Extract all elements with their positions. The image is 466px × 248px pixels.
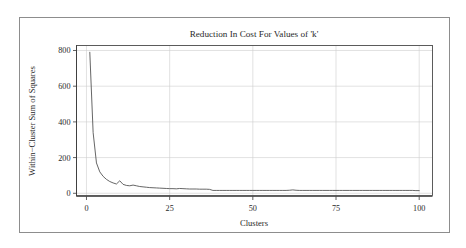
plot-frame [77,46,433,196]
elbow-plot-svg: 0255075100 0200400600800 Reduction In Co… [0,0,466,248]
x-axis-title: Clusters [240,218,269,228]
y-tick-label: 600 [58,82,70,91]
x-tick-label: 100 [413,204,425,213]
x-tick-label: 75 [332,204,340,213]
y-axis: 0200400600800 [58,46,76,199]
y-tick-label: 200 [58,154,70,163]
figure-root: 0255075100 0200400600800 Reduction In Co… [0,0,466,248]
x-tick-label: 50 [249,204,257,213]
x-axis: 0255075100 [77,197,433,213]
y-tick-label: 400 [58,118,70,127]
data-series-line [90,52,419,190]
y-tick-label: 0 [66,189,70,198]
x-tick-label: 0 [84,204,88,213]
y-tick-label: 800 [58,46,70,55]
y-axis-title: Within−Cluster Sum of Squares [27,65,37,175]
gridlines-group [77,46,433,197]
chart-title: Reduction In Cost For Values of 'k' [190,29,319,39]
x-tick-label: 25 [166,204,174,213]
